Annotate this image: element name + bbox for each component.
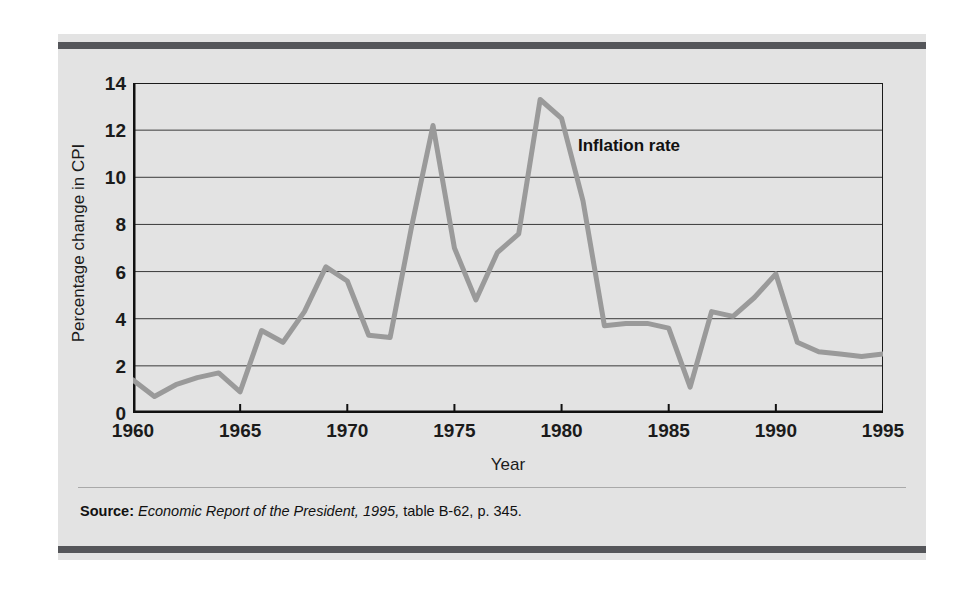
series-line-inflation-rate (133, 100, 883, 397)
line-chart-svg (133, 83, 883, 413)
x-axis-tick-labels: 19601965197019751980198519901995 (133, 421, 883, 447)
y-axis-tick-labels: 02468101214 (88, 83, 126, 413)
y-tick-label: 6 (92, 263, 126, 282)
source-detail: table B-62, p. 345. (403, 503, 522, 519)
y-tick-label: 10 (92, 168, 126, 187)
y-tick-label: 8 (92, 215, 126, 234)
source-label: Source: (80, 503, 134, 519)
series-annotation-label: Inflation rate (578, 136, 680, 156)
plot-area (133, 83, 883, 413)
bottom-rule (58, 546, 926, 553)
x-tick-label: 1995 (848, 421, 918, 440)
x-tick-label: 1965 (205, 421, 275, 440)
source-title: Economic Report of the President, 1995, (138, 503, 399, 519)
y-tick-label: 4 (92, 310, 126, 329)
source-note: Source: Economic Report of the President… (80, 503, 522, 519)
x-tick-label: 1960 (98, 421, 168, 440)
y-tick-label: 12 (92, 121, 126, 140)
figure-container: 02468101214 1960196519701975198019851990… (0, 0, 968, 592)
y-tick-label: 2 (92, 357, 126, 376)
y-tick-label: 14 (92, 74, 126, 93)
x-tick-label: 1970 (312, 421, 382, 440)
x-tick-label: 1990 (741, 421, 811, 440)
x-tick-label: 1985 (634, 421, 704, 440)
y-axis-title: Percentage change in CPI (69, 103, 89, 383)
x-tick-label: 1980 (527, 421, 597, 440)
x-axis-title: Year (133, 455, 883, 475)
top-rule (58, 42, 926, 49)
x-tick-label: 1975 (419, 421, 489, 440)
plot-frame (134, 84, 883, 413)
source-separator (78, 487, 906, 488)
